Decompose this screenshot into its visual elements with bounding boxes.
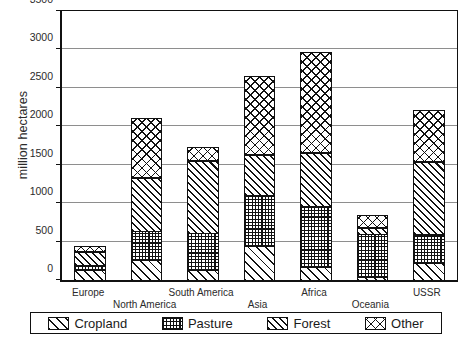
bar-segment-cropland-oceania[interactable] [357,277,389,281]
bar-segment-forest-ussr[interactable] [413,162,445,236]
y-axis-tick-label: 1000 [30,185,53,197]
y-axis-tick-label: 0 [47,262,53,274]
legend-item-pasture[interactable]: Pasture [162,316,233,331]
bar-segment-cropland-ussr[interactable] [413,263,445,281]
x-axis-label-asia: Asia [248,299,267,310]
y-axis-tick-label: 1500 [30,147,53,159]
bar-north-america[interactable] [131,115,163,280]
bar-segment-cropland-europe[interactable] [74,270,106,281]
bar-segment-forest-asia[interactable] [244,155,276,197]
bar-segment-forest-africa[interactable] [300,153,332,207]
bar-europe[interactable] [74,243,106,280]
bar-segment-pasture-south-america[interactable] [187,233,219,271]
bar-segment-cropland-south-america[interactable] [187,270,219,281]
bar-segment-other-africa[interactable] [300,52,332,153]
legend-item-other[interactable]: Other [365,316,424,331]
bar-asia[interactable] [244,73,276,281]
bar-segment-pasture-africa[interactable] [300,206,332,268]
bar-segment-other-north-america[interactable] [131,118,163,179]
bar-segment-other-oceania[interactable] [357,215,389,227]
y-axis-tick-label: 3500 [30,0,53,5]
diagonal-hatch-wide-swatch [48,317,69,330]
bar-oceania[interactable] [357,212,389,280]
cross-hatch-swatch [365,317,386,330]
legend-label: Pasture [188,316,233,331]
bar-segment-cropland-africa[interactable] [300,267,332,281]
bar-segment-forest-north-america[interactable] [131,178,163,232]
x-axis-label-europe: Europe [72,287,104,298]
bar-africa[interactable] [300,49,332,280]
bar-segment-pasture-north-america[interactable] [131,231,163,261]
legend-label: Cropland [74,316,127,331]
y-axis-title: million hectares [16,50,30,220]
bar-segment-pasture-oceania[interactable] [357,234,389,278]
bar-segment-cropland-north-america[interactable] [131,260,163,281]
bar-south-america[interactable] [187,144,219,280]
y-axis-tick-label: 500 [35,224,53,236]
y-axis-tick-label: 3000 [30,31,53,43]
y-axis-tick-label: 2000 [30,108,53,120]
x-axis-label-oceania: Oceania [352,299,389,310]
x-axis-label-africa: Africa [301,287,327,298]
bar-ussr[interactable] [413,107,445,280]
diagonal-hatch-dense-swatch [267,317,288,330]
bar-segment-other-south-america[interactable] [187,147,219,161]
bar-segment-other-asia[interactable] [244,76,276,155]
checker-dot-swatch [162,317,183,330]
bar-segment-pasture-asia[interactable] [244,195,276,247]
legend-item-cropland[interactable]: Cropland [48,316,127,331]
x-axis-label-north-america: North America [113,299,176,310]
bar-segment-forest-europe[interactable] [74,252,106,265]
bar-segment-cropland-asia[interactable] [244,246,276,281]
x-axis-label-ussr: USSR [413,287,441,298]
x-axis-label-south-america: South America [169,287,234,298]
legend-label: Other [391,316,424,331]
legend-item-forest[interactable]: Forest [267,316,330,331]
stacked-bar-chart-figure: million hectares 05001000150020002500300… [0,0,468,337]
plot-area: 0500100015002000250030003500 [60,10,458,282]
bar-segment-pasture-ussr[interactable] [413,234,445,264]
legend-label: Forest [293,316,330,331]
bar-segment-other-ussr[interactable] [413,110,445,161]
chart-legend: CroplandPastureForestOther [30,312,442,334]
bar-segment-forest-south-america[interactable] [187,161,219,234]
y-axis-tick-label: 2500 [30,70,53,82]
bars-layer [62,11,457,280]
